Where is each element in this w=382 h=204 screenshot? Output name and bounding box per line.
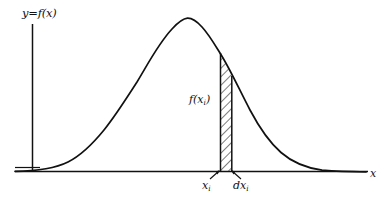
- figure-canvas: y=f(x) f(xi) xi dxi x: [0, 0, 382, 204]
- curve-height-label: f(xi): [189, 94, 210, 107]
- strip-width-label: dxi: [233, 180, 249, 193]
- y-axis-label: y=f(x): [22, 8, 57, 20]
- strip-hatch-fill: [216, 48, 238, 176]
- strip-width-label-text: dx: [233, 179, 246, 192]
- curve-height-label-close: ): [206, 93, 210, 106]
- curve-height-label-text: f(x: [189, 93, 204, 106]
- strip-width-label-subscript: i: [246, 184, 248, 193]
- x-axis-label: x: [370, 168, 376, 179]
- strip-position-label-subscript: i: [208, 184, 210, 193]
- element-strip: [216, 48, 238, 176]
- strip-position-label: xi: [202, 180, 211, 193]
